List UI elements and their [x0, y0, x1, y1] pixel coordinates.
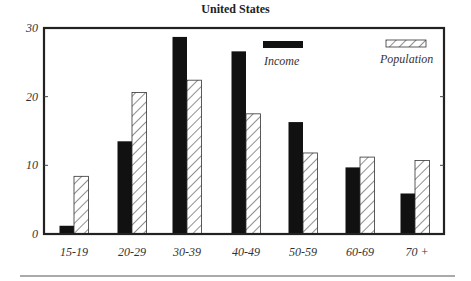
legend-population-label: Population [379, 52, 433, 66]
x-tick-label: 30-39 [172, 245, 201, 259]
bar-population-70plus [415, 161, 430, 234]
x-tick-label: 70 + [405, 245, 428, 259]
bar-population-20-29 [132, 93, 147, 234]
bar-chart: 0102030 15-1920-2930-3940-4950-5960-6970… [0, 0, 471, 281]
x-axis: 15-1920-2930-3940-4950-5960-6970 + [60, 245, 429, 259]
y-tick-label: 30 [25, 21, 38, 35]
x-tick-label: 15-19 [60, 245, 88, 259]
y-tick-label: 0 [32, 227, 38, 241]
legend-population-swatch [386, 40, 426, 47]
y-tick-label: 10 [26, 158, 38, 172]
bar-income-20-29 [118, 141, 133, 234]
x-tick-label: 20-29 [118, 245, 146, 259]
bar-income-30-39 [173, 37, 188, 234]
bar-income-40-49 [232, 51, 247, 234]
bar-income-60-69 [346, 167, 361, 234]
bar-population-60-69 [360, 157, 375, 234]
legend-income-swatch [263, 41, 303, 48]
y-tick-label: 20 [26, 90, 38, 104]
bar-income-50-59 [289, 122, 304, 234]
bar-population-30-39 [187, 80, 202, 234]
legend-income-label: Income [263, 54, 300, 68]
bar-population-50-59 [303, 153, 318, 234]
bar-population-40-49 [246, 114, 261, 234]
bar-income-70plus [401, 193, 416, 234]
x-tick-label: 40-49 [232, 245, 260, 259]
x-tick-label: 50-59 [289, 245, 317, 259]
bars-group [60, 37, 430, 234]
bar-income-15-19 [60, 226, 75, 234]
x-tick-label: 60-69 [346, 245, 374, 259]
legend: Income Population [263, 40, 433, 68]
bar-population-15-19 [74, 176, 89, 234]
